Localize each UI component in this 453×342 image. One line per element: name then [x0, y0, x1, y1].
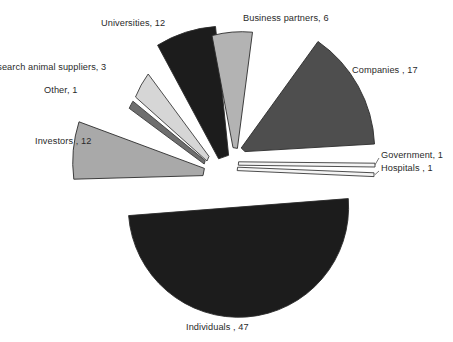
pie-slice-hospitals[interactable] — [237, 167, 374, 176]
pie-slice-government[interactable] — [238, 162, 375, 167]
slice-label-hospitals: Hospitals , 1 — [381, 163, 433, 174]
slice-label-research-animal-suppliers: esearch animal suppliers, 3 — [0, 62, 106, 73]
slice-label-investors: Investors , 12 — [35, 136, 91, 147]
slice-label-other: Other, 1 — [44, 85, 77, 96]
slice-label-government: Government, 1 — [381, 150, 443, 161]
slice-label-companies: Companies , 17 — [352, 65, 418, 76]
slice-label-universities: Universities, 12 — [101, 18, 165, 29]
leader-line-hospitals — [375, 171, 379, 175]
slice-label-business-partners: Business partners, 6 — [243, 13, 329, 24]
leader-line-government — [375, 158, 379, 165]
pie-slice-individuals[interactable] — [129, 199, 349, 318]
pie-slice-companies[interactable] — [241, 42, 374, 152]
slice-label-individuals: Individuals , 47 — [186, 322, 249, 333]
pie-chart-figure: Universities, 12 Business partners, 6 Co… — [0, 0, 453, 342]
